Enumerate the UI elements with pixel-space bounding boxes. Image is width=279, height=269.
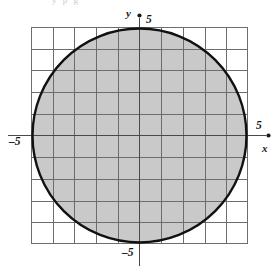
y-axis-tick-label-top: 5 xyxy=(146,14,152,26)
coordinate-plane xyxy=(0,0,279,269)
y-axis-arrow-dot xyxy=(137,13,141,17)
x-axis-label: x xyxy=(262,143,268,154)
x-axis-arrow-dot xyxy=(266,133,270,137)
x-axis-tick-label-right: 5 xyxy=(256,120,262,132)
graph-figure: y p g xyxy=(0,0,279,269)
x-axis-tick-label-left: –5 xyxy=(9,136,21,148)
y-axis-tick-label-bottom: –5 xyxy=(122,247,134,259)
y-axis-label: y xyxy=(126,8,131,19)
